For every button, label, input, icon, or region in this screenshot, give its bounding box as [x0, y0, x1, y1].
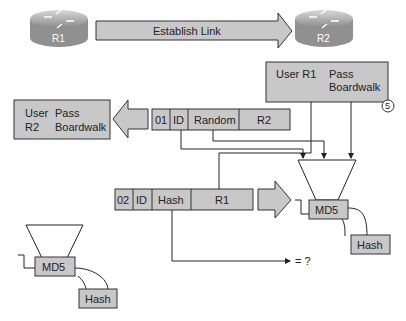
hash-left-label: Hash	[85, 293, 111, 305]
hash-right-label: Hash	[357, 239, 383, 251]
challenge-code: 01	[155, 114, 167, 126]
md5-right-label: MD5	[315, 204, 338, 216]
left-arrow	[113, 100, 148, 138]
step-number: 5	[385, 100, 390, 112]
response-hash: Hash	[158, 194, 184, 206]
md5-right-funnel	[298, 160, 356, 200]
compare-label: = ?	[295, 255, 311, 267]
r2-user-value: R2	[25, 121, 39, 133]
r2-user-label: User	[25, 107, 48, 119]
router-r1-label: R1	[52, 33, 65, 45]
r2-pass-value: Boardwalk	[55, 121, 106, 133]
r1-pass-value: Boardwalk	[329, 81, 380, 93]
r1-user-label: User R1	[276, 68, 316, 80]
challenge-id: ID	[173, 114, 184, 126]
response-id: ID	[136, 194, 147, 206]
r2-credentials-box	[14, 100, 110, 139]
md5-left-funnel	[26, 225, 83, 258]
right-arrow	[258, 181, 291, 218]
router-r2-label: R2	[317, 33, 330, 45]
md5-left-label: MD5	[42, 261, 65, 273]
challenge-name: R2	[257, 114, 271, 126]
challenge-random: Random	[194, 114, 236, 126]
response-name: R1	[215, 194, 229, 206]
r1-pass-label: Pass	[329, 68, 353, 80]
r2-pass-label: Pass	[55, 107, 79, 119]
establish-link-label: Establish Link	[153, 25, 221, 37]
response-code: 02	[117, 194, 129, 206]
